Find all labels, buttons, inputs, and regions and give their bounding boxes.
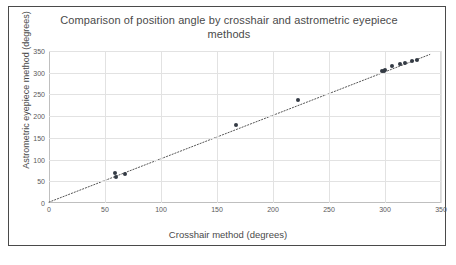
y-gridline [49, 116, 441, 117]
x-tick-label: 0 [47, 206, 51, 213]
x-tick-label: 50 [101, 206, 109, 213]
plot-area: 0501001502002503003500501001502002503003… [49, 51, 441, 203]
y-gridline [49, 94, 441, 95]
x-tick-label: 150 [211, 206, 223, 213]
y-tick-label: 250 [33, 91, 45, 98]
y-tick-label: 100 [33, 156, 45, 163]
y-gridline [49, 181, 441, 182]
data-point [403, 61, 407, 65]
x-gridline [105, 51, 106, 203]
y-tick-label: 0 [41, 200, 45, 207]
x-tick-label: 250 [323, 206, 335, 213]
y-gridline [49, 51, 441, 52]
y-tick-label: 150 [33, 134, 45, 141]
chart-figure: Comparison of position angle by crosshai… [8, 6, 446, 246]
y-tick-label: 350 [33, 48, 45, 55]
x-tick-label: 200 [267, 206, 279, 213]
data-point [390, 64, 394, 68]
x-gridline [385, 51, 386, 203]
x-gridline [329, 51, 330, 203]
x-tick-label: 100 [155, 206, 167, 213]
data-point [234, 123, 238, 127]
y-tick-label: 50 [37, 178, 45, 185]
x-gridline [441, 51, 442, 203]
y-gridline [49, 138, 441, 139]
x-axis-label: Crosshair method (degrees) [9, 229, 447, 240]
y-gridline [49, 160, 441, 161]
x-gridline [161, 51, 162, 203]
data-point [410, 59, 414, 63]
chart-title: Comparison of position angle by crosshai… [49, 13, 409, 41]
x-tick-label: 350 [435, 206, 447, 213]
y-axis-label: Astrometric eyepiece method (degrees) [21, 5, 31, 175]
y-tick-label: 200 [33, 113, 45, 120]
trendline [49, 51, 441, 203]
x-gridline [273, 51, 274, 203]
x-tick-label: 300 [379, 206, 391, 213]
data-point [296, 98, 300, 102]
y-tick-label: 300 [33, 69, 45, 76]
x-gridline [217, 51, 218, 203]
